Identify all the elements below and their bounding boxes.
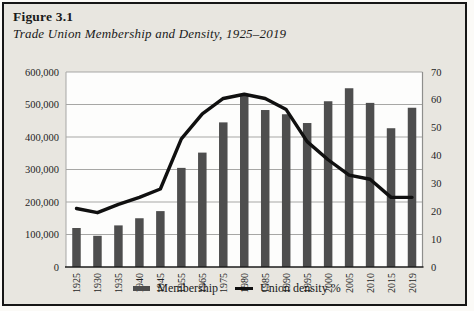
svg-text:300,000: 300,000 (25, 164, 59, 175)
left-axis-labels: 0100,000200,000300,000400,000500,000600,… (25, 67, 59, 273)
membership-bar-swatch-icon (133, 286, 150, 291)
svg-text:10: 10 (431, 234, 442, 245)
svg-text:70: 70 (431, 67, 442, 78)
density-legend-label: Union density % (260, 281, 341, 295)
svg-text:400,000: 400,000 (25, 132, 59, 143)
right-axis-labels: 010203040506070 (431, 67, 442, 273)
svg-text:0: 0 (54, 262, 59, 273)
svg-text:30: 30 (431, 178, 442, 189)
svg-text:40: 40 (431, 150, 442, 161)
membership-legend-label: Membership (157, 281, 218, 295)
chart-canvas: 0100,000200,000300,000400,000500,000600,… (4, 4, 470, 304)
svg-text:500,000: 500,000 (25, 99, 59, 110)
svg-text:200,000: 200,000 (25, 197, 59, 208)
density-line-swatch-icon (235, 287, 253, 291)
svg-text:100,000: 100,000 (25, 229, 59, 240)
svg-text:0: 0 (431, 262, 436, 273)
chart-legend: Membership Union density % (4, 281, 470, 295)
svg-text:20: 20 (431, 206, 442, 217)
svg-text:60: 60 (431, 94, 442, 105)
svg-text:600,000: 600,000 (25, 67, 59, 78)
svg-text:50: 50 (431, 122, 442, 133)
figure-box: Figure 3.1 Trade Union Membership and De… (2, 2, 467, 306)
page: Figure 3.1 Trade Union Membership and De… (0, 0, 474, 311)
